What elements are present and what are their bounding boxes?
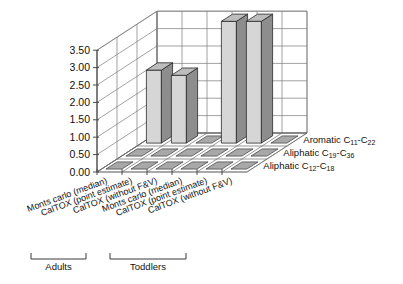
floor-tile — [156, 162, 183, 169]
depth-axis-label: Aliphatic C12-C18 — [263, 160, 334, 172]
floor-tile — [271, 136, 298, 143]
y-axis-tick-label: 1.50 — [70, 113, 91, 125]
bar-side-face — [161, 63, 172, 143]
group-bracket — [110, 253, 186, 259]
group-label: Adults — [45, 261, 72, 272]
bar-front-face — [246, 21, 261, 143]
bar — [246, 14, 272, 143]
bar-front-face — [221, 21, 236, 143]
group-bracket — [31, 253, 86, 259]
floor-tile — [106, 162, 133, 169]
floor-tile — [206, 162, 233, 169]
floor-tile — [151, 149, 178, 156]
floor-tile — [196, 136, 223, 143]
floor-tile — [226, 149, 253, 156]
floor-tile — [231, 162, 258, 169]
bar-front-face — [146, 70, 161, 143]
depth-axis-label: Aromatic C11-C22 — [303, 134, 375, 146]
bar-front-face — [171, 75, 186, 143]
y-axis: 0.000.501.001.502.002.503.003.50 — [70, 44, 99, 178]
bar — [146, 63, 172, 143]
y-axis-tick-label: 3.00 — [70, 61, 91, 73]
floor-tile — [126, 149, 153, 156]
bar — [171, 68, 197, 143]
y-axis-tick-label: 0.00 — [70, 166, 91, 178]
chart-walls — [97, 11, 307, 172]
floor-tile — [201, 149, 228, 156]
bar-series-group — [146, 14, 272, 143]
category-axis-labels: Monts carlo (median)CalTOX (point estima… — [26, 169, 234, 218]
depth-axis-label: Aliphatic C19-C36 — [283, 147, 354, 159]
y-axis-tick-label: 0.50 — [70, 148, 91, 160]
group-brackets: AdultsToddlers — [31, 253, 186, 272]
floor-tile — [181, 162, 208, 169]
bar-side-face — [236, 14, 247, 143]
y-axis-tick-label: 3.50 — [70, 44, 91, 56]
y-axis-tick-label: 2.00 — [70, 96, 91, 108]
floor-tile — [131, 162, 158, 169]
y-axis-tick-label: 2.50 — [70, 79, 91, 91]
chart-container: 0.000.501.001.502.002.503.003.50 Aromati… — [0, 0, 403, 284]
bar-side-face — [261, 14, 272, 143]
y-axis-tick-label: 1.00 — [70, 131, 91, 143]
floor-tile — [176, 149, 203, 156]
three-d-bar-chart: 0.000.501.001.502.002.503.003.50 Aromati… — [0, 0, 403, 284]
bar-side-face — [186, 68, 197, 143]
floor-tile — [251, 149, 278, 156]
bar — [221, 14, 247, 143]
group-label: Toddlers — [130, 261, 166, 272]
